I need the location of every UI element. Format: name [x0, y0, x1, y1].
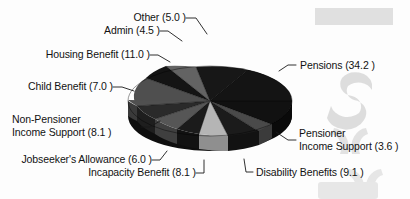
slice-label-incapacity-benefit: Incapacity Benefit (8.1 ): [76, 166, 196, 179]
watermark-bar: [315, 8, 393, 25]
leader-line-housing-benefit: [150, 55, 170, 62]
slice-label-disability-benefits: Disability Benefits (9.1 ): [256, 166, 364, 179]
chart-canvas: Other (5.0 ) Admin (4.5 ) Housing Benefi…: [0, 0, 410, 199]
slice-label-admin: Admin (4.5 ): [48, 24, 160, 37]
leader-line-disability-benefits: [244, 159, 253, 172]
slice-label-pensioner-income-support-line2: Income Support (3.6 ): [299, 140, 398, 153]
leader-line-pensions: [279, 65, 296, 71]
leader-line-child-benefit: [113, 87, 134, 91]
leader-line-jobseekers-allowance: [152, 151, 167, 160]
slice-label-other: Other (5.0 ): [74, 11, 186, 24]
leader-line-admin: [160, 31, 182, 41]
watermark-bar-2: [318, 182, 378, 199]
slice-label-non-pensioner-income-support-line1: Non-Pensioner: [12, 113, 81, 126]
slice-label-pensioner-income-support-line1: Pensioner: [299, 127, 345, 140]
slice-label-non-pensioner-income-support-line2: Income Support (8.1 ): [12, 126, 111, 139]
slice-label-pensions: Pensions (34.2 ): [300, 59, 375, 72]
slice-label-jobseekers-allowance: Jobseeker's Allowance (6.0 ): [10, 153, 152, 166]
leader-line-incapacity-benefit: [196, 160, 204, 173]
leader-line-other: [186, 18, 207, 34]
slice-label-child-benefit: Child Benefit (7.0 ): [8, 80, 113, 93]
slice-label-housing-benefit: Housing Benefit (11.0 ): [18, 48, 150, 61]
watermark-letter-s: [327, 72, 372, 129]
